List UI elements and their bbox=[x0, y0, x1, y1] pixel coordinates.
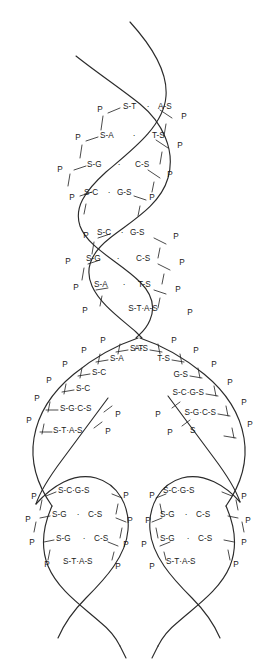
phosphate-label: P bbox=[115, 410, 121, 419]
nucleotide-label: S-T·A-S bbox=[128, 304, 158, 313]
hydrogen-bond-dot: · bbox=[121, 228, 124, 237]
phosphate-label: P bbox=[73, 283, 79, 292]
hydrogen-bond-dot: · bbox=[123, 280, 126, 289]
phosphate-label: P bbox=[115, 562, 121, 571]
phosphate-label: P bbox=[173, 232, 179, 241]
nucleotide-label: S-G bbox=[87, 160, 102, 169]
hydrogen-bond-dot: · bbox=[108, 188, 111, 197]
phosphate-label: P bbox=[26, 416, 32, 425]
phosphate-label: P bbox=[31, 492, 37, 501]
nucleotide-label: C-S bbox=[135, 160, 150, 169]
phosphate-label: P bbox=[193, 346, 199, 355]
fork-left-template-strand bbox=[33, 338, 138, 506]
nucleotide-label: S-T bbox=[123, 102, 136, 111]
nucleotide-label: S-G·C-S bbox=[60, 404, 92, 413]
daughter-right-tail bbox=[152, 646, 158, 658]
phosphate-label: P bbox=[167, 428, 173, 437]
phosphate-label: P bbox=[46, 376, 52, 385]
phosphate-label: P bbox=[82, 306, 88, 315]
phosphate-label: P bbox=[65, 257, 71, 266]
nucleotide-label: T-S bbox=[152, 131, 165, 140]
nucleotide-label: S-C bbox=[76, 384, 90, 393]
daughter-right-labels: P S-C·G-S P P S-G · C-S P P S-G · C-S P … bbox=[141, 486, 251, 571]
phosphate-label: P bbox=[149, 562, 155, 571]
nucleotide-label: S-T·A-S bbox=[53, 426, 83, 435]
phosphate-label: P bbox=[75, 133, 81, 142]
nucleotide-label: S-C bbox=[92, 368, 106, 377]
turn2-rungs bbox=[82, 234, 170, 308]
phosphate-label: P bbox=[181, 112, 187, 121]
daughter-right-strand-a bbox=[158, 506, 234, 646]
daughter-right-rungs bbox=[152, 492, 244, 560]
nucleotide-label: C-S bbox=[198, 534, 213, 543]
nucleotide-label: S bbox=[190, 426, 196, 435]
hydrogen-bond-dot: · bbox=[133, 131, 136, 140]
phosphate-label: P bbox=[175, 285, 181, 294]
nucleotide-label: S-G bbox=[86, 254, 101, 263]
daughter-left-strand-a bbox=[44, 506, 120, 646]
hydrogen-bond-dot: · bbox=[117, 254, 120, 263]
fork-right-labels: A-S P T-S P G-S P S-C·G-S P S-G·C-S P S … bbox=[134, 336, 253, 437]
phosphate-label: P bbox=[247, 420, 253, 429]
phosphate-label: P bbox=[44, 560, 50, 569]
nucleotide-label: T-S bbox=[157, 354, 170, 363]
nucleotide-label: C-S bbox=[88, 510, 103, 519]
phosphate-label: P bbox=[29, 538, 35, 547]
daughter-left-rungs bbox=[34, 492, 126, 560]
nucleotide-label: S-A bbox=[94, 280, 108, 289]
nucleotide-label: G-S bbox=[130, 228, 145, 237]
nucleotide-label: S-G bbox=[52, 510, 67, 519]
phosphate-label: P bbox=[57, 165, 63, 174]
phosphate-label: P bbox=[100, 336, 106, 345]
phosphate-label: P bbox=[83, 231, 89, 240]
hydrogen-bond-dot: · bbox=[83, 534, 86, 543]
nucleotide-label: S-C·G-S bbox=[173, 388, 205, 397]
hydrogen-bond-dot: · bbox=[118, 160, 121, 169]
nucleotide-label: G-S bbox=[173, 370, 188, 379]
parent-strand-a bbox=[78, 22, 166, 338]
nucleotide-label: S-T·A-S bbox=[63, 557, 93, 566]
phosphate-label: P bbox=[177, 141, 183, 150]
nucleotide-label: S-A bbox=[110, 354, 124, 363]
phosphate-label: P bbox=[167, 170, 173, 179]
phosphate-label: P bbox=[141, 540, 147, 549]
fork-left-labels: P S-T P S-A P S-C P S-C P S-G·C-S P S-T·… bbox=[26, 336, 143, 436]
phosphate-label: P bbox=[127, 516, 133, 525]
nucleotide-label: S-G bbox=[160, 510, 175, 519]
dna-diagram-svg: P S-T · A-S P P S-A · T-S P P S-G · C-S … bbox=[0, 0, 277, 659]
phosphate-label: P bbox=[233, 560, 239, 569]
phosphate-label: P bbox=[149, 193, 155, 202]
phosphate-label: P bbox=[171, 336, 177, 345]
phosphate-label: P bbox=[227, 378, 233, 387]
phosphate-label: P bbox=[105, 427, 111, 436]
phosphate-label: P bbox=[69, 193, 75, 202]
nucleotide-label: S-A bbox=[100, 131, 114, 140]
phosphate-label: P bbox=[155, 410, 161, 419]
nucleotide-label: T-S bbox=[138, 280, 151, 289]
nucleotide-label: S-C·G-S bbox=[163, 486, 195, 495]
nucleotide-label: C-S bbox=[94, 534, 109, 543]
nucleotide-label: A-S bbox=[158, 102, 172, 111]
daughter-left-tail bbox=[120, 646, 126, 658]
phosphate-label: P bbox=[123, 540, 129, 549]
hydrogen-bond-dot: · bbox=[187, 534, 190, 543]
phosphate-label: P bbox=[245, 516, 251, 525]
phosphate-label: P bbox=[97, 105, 103, 114]
nucleotide-label: S-C·G-S bbox=[58, 486, 90, 495]
phosphate-label: P bbox=[187, 308, 193, 317]
nucleotide-label: S-G bbox=[56, 534, 71, 543]
nucleotide-label: C-S bbox=[196, 510, 211, 519]
nucleotide-label: C-S bbox=[136, 254, 151, 263]
phosphate-label: P bbox=[241, 492, 247, 501]
nucleotide-label: S-G bbox=[160, 534, 175, 543]
phosphate-label: P bbox=[149, 491, 155, 500]
nucleotide-label: A-S bbox=[134, 344, 148, 353]
hydrogen-bond-dot: · bbox=[147, 102, 150, 111]
phosphate-label: P bbox=[241, 538, 247, 547]
phosphate-label: P bbox=[211, 360, 217, 369]
phosphate-label: P bbox=[62, 360, 68, 369]
phosphate-label: P bbox=[179, 258, 185, 267]
phosphate-label: P bbox=[81, 346, 87, 355]
turn1-labels: P S-T · A-S P P S-A · T-S P P S-G · C-S … bbox=[57, 102, 187, 202]
phosphate-label: P bbox=[123, 491, 129, 500]
